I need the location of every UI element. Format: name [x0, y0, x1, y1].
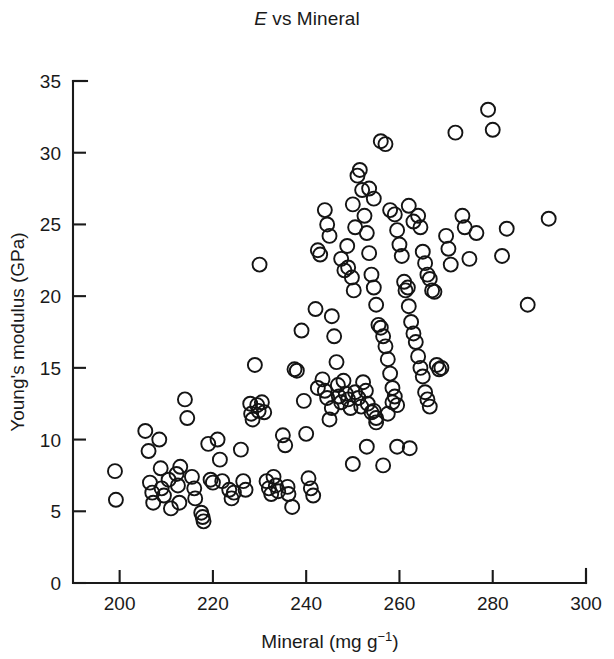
- scatter-point: [302, 471, 316, 485]
- scatter-point: [276, 428, 290, 442]
- y-tick-label: 20: [40, 286, 61, 307]
- scatter-point: [278, 438, 292, 452]
- y-axis-title: Young's modulus (GPa): [7, 232, 28, 431]
- scatter-point: [327, 329, 341, 343]
- x-tick-label: 300: [570, 593, 602, 614]
- scatter-point: [390, 223, 404, 237]
- scatter-point: [330, 355, 344, 369]
- scatter-point: [152, 433, 166, 447]
- plot-svg: 05101520253035 200220240260280300 Minera…: [0, 0, 614, 659]
- y-tick-label: 0: [50, 573, 61, 594]
- scatter-point: [441, 242, 455, 256]
- scatter-point: [357, 209, 371, 223]
- scatter-point: [178, 392, 192, 406]
- scatter-point: [481, 103, 495, 117]
- scatter-point: [486, 123, 500, 137]
- scatter-point: [439, 229, 453, 243]
- scatter-point: [108, 464, 122, 478]
- scatter-point: [500, 222, 514, 236]
- y-axis-ticks: 05101520253035: [40, 71, 86, 594]
- scatter-point: [495, 249, 509, 263]
- scatter-point: [367, 281, 381, 295]
- scatter-point: [234, 443, 248, 457]
- scatter-point: [369, 298, 383, 312]
- scatter-point: [318, 203, 332, 217]
- scatter-point: [462, 252, 476, 266]
- scatter-point: [295, 324, 309, 338]
- scatter-point: [409, 335, 423, 349]
- x-tick-label: 280: [477, 593, 509, 614]
- scatter-point: [402, 199, 416, 213]
- scatter-point: [360, 440, 374, 454]
- scatter-point: [299, 427, 313, 441]
- scatter-point: [180, 411, 194, 425]
- scatter-point: [360, 226, 374, 240]
- scatter-point: [313, 248, 327, 262]
- scatter-point: [364, 268, 378, 282]
- scatter-point: [253, 258, 267, 272]
- y-tick-label: 25: [40, 214, 61, 235]
- scatter-point: [356, 375, 370, 389]
- scatter-point: [542, 212, 556, 226]
- x-tick-label: 240: [290, 593, 322, 614]
- scatter-chart-figure: E vs Mineral 05101520253035 200220240260…: [0, 0, 614, 659]
- scatter-point: [448, 126, 462, 140]
- y-tick-label: 35: [40, 71, 61, 92]
- scatter-point: [325, 309, 339, 323]
- scatter-point: [340, 239, 354, 253]
- scatter-point: [521, 298, 535, 312]
- y-tick-label: 10: [40, 430, 61, 451]
- x-axis-title-close: ): [392, 631, 398, 652]
- scatter-point: [378, 339, 392, 353]
- y-tick-label: 5: [50, 501, 61, 522]
- scatter-point: [297, 394, 311, 408]
- scatter-point: [362, 246, 376, 260]
- x-axis-title: Mineral (mg g−1): [261, 629, 398, 652]
- x-tick-label: 260: [384, 593, 416, 614]
- scatter-point: [346, 197, 360, 211]
- scatter-point: [188, 491, 202, 505]
- scatter-point: [138, 424, 152, 438]
- x-tick-label: 200: [104, 593, 136, 614]
- x-axis-title-main: Mineral (mg g: [261, 631, 377, 652]
- scatter-point: [248, 358, 262, 372]
- x-axis-title-exponent: −1: [378, 629, 393, 644]
- scatter-point: [402, 299, 416, 313]
- scatter-point: [381, 352, 395, 366]
- scatter-point: [376, 458, 390, 472]
- scatter-point: [444, 258, 458, 272]
- scatter-point: [346, 457, 360, 471]
- scatter-point: [383, 367, 397, 381]
- scatter-point: [469, 226, 483, 240]
- x-axis-ticks: 200220240260280300: [104, 570, 602, 614]
- scatter-point: [376, 329, 390, 343]
- x-tick-label: 220: [197, 593, 229, 614]
- scatter-point: [109, 493, 123, 507]
- scatter-point: [416, 369, 430, 383]
- scatter-point: [309, 302, 323, 316]
- y-tick-label: 15: [40, 358, 61, 379]
- scatter-point: [142, 444, 156, 458]
- scatter-points: [108, 103, 556, 529]
- scatter-point: [285, 500, 299, 514]
- scatter-point: [385, 381, 399, 395]
- scatter-point: [236, 474, 250, 488]
- scatter-point: [378, 137, 392, 151]
- y-tick-label: 30: [40, 143, 61, 164]
- scatter-point: [213, 453, 227, 467]
- scatter-point: [347, 283, 361, 297]
